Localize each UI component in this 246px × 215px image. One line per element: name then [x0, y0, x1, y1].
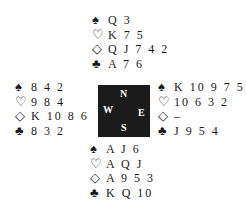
- heart-icon: ♡: [158, 95, 174, 110]
- north-diamonds: ◇Q J 7 4 2: [92, 42, 169, 57]
- club-icon: ♣: [90, 186, 106, 201]
- south-hand: ♠A J 6 ♡A Q J ◇A 9 5 3 ♣K Q 10: [90, 142, 155, 200]
- north-clubs: ♣A 7 6: [92, 57, 169, 72]
- diamond-icon: ◇: [158, 109, 174, 124]
- spade-icon: ♠: [15, 80, 31, 95]
- west-hearts: ♡9 8 4: [15, 95, 89, 110]
- heart-icon: ♡: [15, 95, 31, 110]
- heart-icon: ♡: [92, 28, 108, 43]
- spade-icon: ♠: [158, 80, 174, 95]
- west-diamonds: ◇K 10 8 6: [15, 109, 89, 124]
- south-clubs: ♣K Q 10: [90, 186, 155, 201]
- north-hearts: ♡K 7 5: [92, 28, 169, 43]
- south-diamonds: ◇A 9 5 3: [90, 171, 155, 186]
- club-icon: ♣: [15, 124, 31, 139]
- east-spades: ♠K 10 9 7 5: [158, 80, 245, 95]
- east-hand: ♠K 10 9 7 5 ♡10 6 3 2 ◇– ♣J 9 5 4: [158, 80, 245, 138]
- compass-east: E: [138, 107, 145, 118]
- east-clubs: ♣J 9 5 4: [158, 124, 245, 139]
- south-spades: ♠A J 6: [90, 142, 155, 157]
- north-hand: ♠Q 3 ♡K 7 5 ◇Q J 7 4 2 ♣A 7 6: [92, 13, 169, 71]
- compass-box: N W E S: [98, 85, 150, 137]
- heart-icon: ♡: [90, 157, 106, 172]
- diamond-icon: ◇: [92, 42, 108, 57]
- diamond-icon: ◇: [90, 171, 106, 186]
- east-diamonds: ◇–: [158, 109, 245, 124]
- south-hearts: ♡A Q J: [90, 157, 155, 172]
- club-icon: ♣: [92, 57, 108, 72]
- spade-icon: ♠: [92, 13, 108, 28]
- east-hearts: ♡10 6 3 2: [158, 95, 245, 110]
- diamond-icon: ◇: [15, 109, 31, 124]
- west-clubs: ♣8 3 2: [15, 124, 89, 139]
- west-spades: ♠8 4 2: [15, 80, 89, 95]
- north-spades: ♠Q 3: [92, 13, 169, 28]
- compass-north: N: [120, 88, 127, 99]
- spade-icon: ♠: [90, 142, 106, 157]
- west-hand: ♠8 4 2 ♡9 8 4 ◇K 10 8 6 ♣8 3 2: [15, 80, 89, 138]
- compass-west: W: [103, 104, 113, 115]
- compass-south: S: [121, 122, 127, 133]
- club-icon: ♣: [158, 124, 174, 139]
